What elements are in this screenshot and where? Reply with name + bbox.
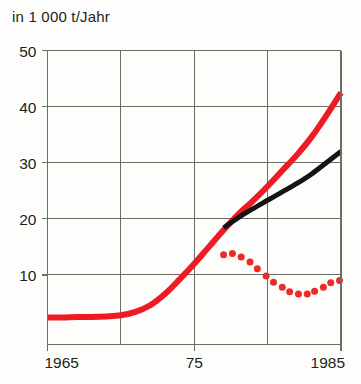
data-point-marker [263,273,270,280]
data-point-marker [311,288,318,295]
series-group [48,93,344,318]
data-point-marker [247,259,254,266]
data-point-marker [270,279,277,286]
data-point-marker [220,251,227,258]
data-point-marker [279,284,286,291]
data-point-marker [327,279,334,286]
y-axis-tick-label: 40 [19,99,37,116]
data-point-marker [336,277,343,284]
data-point-marker [295,290,302,297]
chart-container: in 1 000 t/Jahr 50403020101965751985 [0,0,361,384]
x-axis-tick-label: 1985 [311,354,345,371]
data-point-marker [320,284,327,291]
data-point-marker [238,253,245,260]
series-dotted-difference [220,250,343,297]
data-point-marker [254,265,261,272]
y-axis-tick-label: 10 [19,267,37,284]
data-point-marker [304,290,311,297]
y-axis-tick-label: 20 [19,211,37,228]
chart-plot-area: 50403020101965751985 [0,0,361,384]
gridlines-group [48,51,342,345]
y-axis-tick-label: 50 [19,43,37,60]
tick-marks-group [42,51,342,351]
y-axis-tick-label: 30 [19,155,37,172]
tick-labels-group: 50403020101965751985 [19,43,345,371]
data-point-marker [286,288,293,295]
x-axis-tick-label: 1965 [45,354,79,371]
data-point-marker [229,250,236,257]
x-axis-tick-label: 75 [186,354,203,371]
